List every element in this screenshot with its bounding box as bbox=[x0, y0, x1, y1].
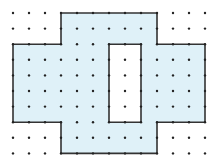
grid-dot bbox=[76, 137, 78, 139]
grid-dot bbox=[60, 90, 62, 92]
grid-dot bbox=[28, 74, 30, 76]
grid-dot bbox=[140, 27, 142, 29]
grid-dot bbox=[204, 74, 206, 76]
grid-dot bbox=[188, 59, 190, 61]
grid-dot bbox=[12, 12, 14, 14]
grid-dot bbox=[124, 43, 126, 45]
grid-dot bbox=[108, 59, 110, 61]
grid-dot bbox=[188, 121, 190, 123]
grid-dot bbox=[44, 12, 46, 14]
grid-dot bbox=[124, 105, 126, 107]
grid-dot bbox=[28, 105, 30, 107]
grid-dot bbox=[140, 137, 142, 139]
grid-dot bbox=[156, 43, 158, 45]
grid-dot bbox=[76, 43, 78, 45]
grid-dot bbox=[44, 27, 46, 29]
grid-dot bbox=[76, 105, 78, 107]
grid-dot bbox=[188, 137, 190, 139]
grid-dot bbox=[12, 74, 14, 76]
grid-dot bbox=[108, 27, 110, 29]
grid-dot bbox=[108, 105, 110, 107]
grid-dot bbox=[28, 137, 30, 139]
grid-dot bbox=[204, 59, 206, 61]
grid-dot bbox=[140, 152, 142, 154]
grid-dot bbox=[156, 27, 158, 29]
grid-dot bbox=[124, 12, 126, 14]
grid-dot bbox=[140, 12, 142, 14]
grid-dot bbox=[60, 43, 62, 45]
grid-dot bbox=[92, 90, 94, 92]
grid-dot bbox=[76, 152, 78, 154]
grid-dot bbox=[28, 121, 30, 123]
grid-dot bbox=[156, 105, 158, 107]
grid-dot bbox=[92, 74, 94, 76]
grid-dot bbox=[12, 59, 14, 61]
grid-dot bbox=[60, 27, 62, 29]
grid-dot bbox=[204, 43, 206, 45]
grid-dot bbox=[172, 152, 174, 154]
grid-dot bbox=[12, 152, 14, 154]
grid-dot bbox=[188, 74, 190, 76]
grid-dot bbox=[12, 121, 14, 123]
grid-dot bbox=[92, 137, 94, 139]
grid-dot bbox=[108, 90, 110, 92]
grid-dot bbox=[44, 43, 46, 45]
dot-grid-diagram bbox=[0, 0, 218, 163]
grid-dot bbox=[44, 90, 46, 92]
shaded-cross-shape-with-hole bbox=[13, 13, 205, 153]
grid-dot bbox=[60, 137, 62, 139]
grid-dot bbox=[76, 90, 78, 92]
grid-dot bbox=[92, 121, 94, 123]
grid-dot bbox=[92, 105, 94, 107]
grid-dot bbox=[60, 74, 62, 76]
grid-dot bbox=[140, 105, 142, 107]
grid-dot bbox=[172, 121, 174, 123]
grid-dot bbox=[124, 152, 126, 154]
grid-dot bbox=[124, 59, 126, 61]
grid-dot bbox=[188, 152, 190, 154]
grid-dot bbox=[44, 59, 46, 61]
grid-dot bbox=[12, 27, 14, 29]
grid-dot bbox=[172, 59, 174, 61]
grid-dot bbox=[28, 152, 30, 154]
grid-dot bbox=[44, 121, 46, 123]
grid-dot bbox=[108, 121, 110, 123]
grid-dot bbox=[204, 12, 206, 14]
grid-dot bbox=[172, 137, 174, 139]
grid-dot bbox=[28, 43, 30, 45]
grid-dot bbox=[140, 90, 142, 92]
grid-dot bbox=[12, 137, 14, 139]
grid-dot bbox=[188, 105, 190, 107]
grid-dot bbox=[140, 121, 142, 123]
grid-dot bbox=[140, 74, 142, 76]
grid-dot bbox=[108, 74, 110, 76]
grid-dot bbox=[156, 137, 158, 139]
grid-dot bbox=[124, 74, 126, 76]
grid-dot bbox=[204, 27, 206, 29]
grid-dot bbox=[60, 152, 62, 154]
grid-dot bbox=[172, 27, 174, 29]
grid-dot bbox=[12, 43, 14, 45]
grid-dot bbox=[156, 152, 158, 154]
grid-dot bbox=[140, 59, 142, 61]
grid-dot bbox=[188, 12, 190, 14]
grid-dot bbox=[172, 90, 174, 92]
grid-dot bbox=[108, 12, 110, 14]
grid-dot bbox=[92, 12, 94, 14]
grid-dot bbox=[92, 27, 94, 29]
grid-dot bbox=[28, 90, 30, 92]
grid-dot bbox=[92, 59, 94, 61]
grid-dot bbox=[76, 121, 78, 123]
grid-dot bbox=[76, 27, 78, 29]
grid-dot bbox=[172, 105, 174, 107]
grid-dot bbox=[204, 90, 206, 92]
grid-dot bbox=[12, 105, 14, 107]
grid-dot bbox=[76, 74, 78, 76]
grid-dot bbox=[12, 90, 14, 92]
grid-dot bbox=[44, 152, 46, 154]
grid-dot bbox=[188, 27, 190, 29]
grid-dot bbox=[172, 12, 174, 14]
grid-dot bbox=[156, 12, 158, 14]
grid-dot bbox=[108, 43, 110, 45]
grid-dot bbox=[124, 121, 126, 123]
